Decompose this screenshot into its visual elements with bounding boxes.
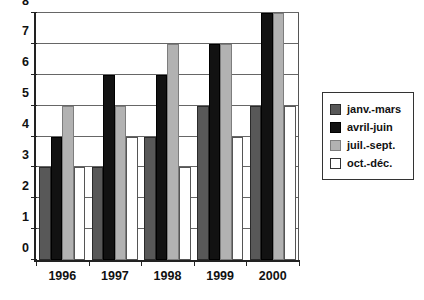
bar bbox=[220, 44, 232, 260]
bar bbox=[261, 13, 273, 260]
x-tick-mark bbox=[141, 260, 142, 266]
y-tick-label: 1 bbox=[22, 210, 29, 223]
bar bbox=[209, 44, 221, 260]
right-axis-line bbox=[298, 13, 299, 260]
chart-figure: 012345678 19961997199819992000 janv.-mar… bbox=[0, 0, 424, 300]
x-tick-mark bbox=[194, 260, 195, 266]
y-tick-label: 4 bbox=[22, 118, 29, 131]
bar bbox=[179, 167, 191, 260]
bar bbox=[232, 137, 244, 261]
y-tick-label: 0 bbox=[22, 241, 29, 254]
y-tick-mark bbox=[31, 74, 37, 75]
y-tick-label: 2 bbox=[22, 180, 29, 193]
bar bbox=[144, 137, 156, 261]
legend-item-label: juil.-sept. bbox=[347, 140, 395, 151]
bar bbox=[197, 106, 209, 260]
bar bbox=[167, 44, 179, 260]
bar bbox=[115, 106, 127, 260]
plot-area: 012345678 19961997199819992000 bbox=[34, 13, 299, 262]
legend-swatch-icon bbox=[330, 140, 341, 151]
y-tick-mark bbox=[31, 197, 37, 198]
bar bbox=[51, 137, 63, 261]
x-tick-label: 1997 bbox=[101, 270, 129, 283]
bar bbox=[284, 106, 296, 260]
bar-group bbox=[144, 13, 190, 260]
legend-item: avril-juin bbox=[330, 118, 407, 136]
x-tick-label: 1996 bbox=[48, 270, 76, 283]
legend-item: juil.-sept. bbox=[330, 136, 407, 154]
x-tick-label: 2000 bbox=[259, 270, 287, 283]
legend-item-label: oct.-déc. bbox=[347, 158, 392, 169]
legend-item-label: avril-juin bbox=[347, 122, 393, 133]
y-tick-label: 8 bbox=[22, 0, 29, 7]
x-tick-label: 1998 bbox=[154, 270, 182, 283]
bar bbox=[273, 13, 285, 260]
chart-legend: janv.-marsavril-juinjuil.-sept.oct.-déc. bbox=[322, 92, 414, 180]
y-tick-label: 7 bbox=[22, 25, 29, 38]
y-tick-label: 6 bbox=[22, 56, 29, 69]
legend-swatch-icon bbox=[330, 122, 341, 133]
y-tick-mark bbox=[31, 166, 37, 167]
y-tick-mark bbox=[31, 12, 37, 13]
bar-group bbox=[39, 13, 85, 260]
bar bbox=[92, 167, 104, 260]
bar bbox=[126, 137, 138, 261]
x-tick-mark bbox=[36, 260, 37, 266]
y-tick-mark bbox=[31, 136, 37, 137]
legend-item: oct.-déc. bbox=[330, 154, 407, 172]
bar bbox=[74, 167, 86, 260]
y-tick-label: 5 bbox=[22, 87, 29, 100]
bar bbox=[250, 106, 262, 260]
bar-group bbox=[92, 13, 138, 260]
y-tick-mark bbox=[31, 228, 37, 229]
legend-swatch-icon bbox=[330, 104, 341, 115]
y-tick-label: 3 bbox=[22, 149, 29, 162]
bar bbox=[39, 167, 51, 260]
bar-group bbox=[197, 13, 243, 260]
bar bbox=[62, 106, 74, 260]
x-tick-mark bbox=[246, 260, 247, 266]
legend-item-label: janv.-mars bbox=[347, 104, 401, 115]
x-tick-mark bbox=[89, 260, 90, 266]
bar bbox=[156, 75, 168, 260]
y-tick-mark bbox=[31, 105, 37, 106]
y-tick-mark bbox=[31, 43, 37, 44]
x-tick-label: 1999 bbox=[206, 270, 234, 283]
legend-swatch-icon bbox=[330, 158, 341, 169]
bar bbox=[103, 75, 115, 260]
plot-frame: 012345678 19961997199819992000 bbox=[34, 13, 299, 262]
x-tick-mark bbox=[299, 260, 300, 266]
bar-group bbox=[250, 13, 296, 260]
legend-item: janv.-mars bbox=[330, 100, 407, 118]
